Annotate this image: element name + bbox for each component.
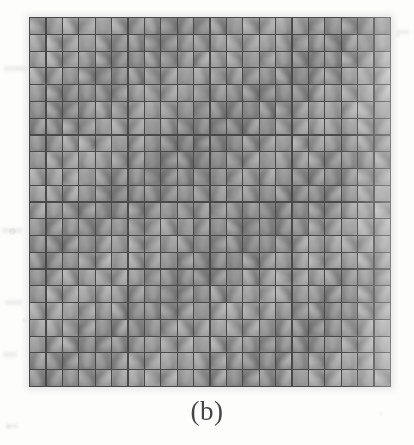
patch-cell	[227, 337, 242, 353]
patch-cell	[342, 303, 357, 319]
patch-cell	[358, 52, 373, 68]
patch-cell	[342, 203, 357, 219]
patch-cell	[342, 270, 357, 286]
scan-artifact	[3, 352, 17, 357]
patch-cell	[47, 203, 62, 219]
patch-cell	[178, 253, 193, 269]
patch-cell	[358, 253, 373, 269]
patch-cell	[342, 119, 357, 135]
patch-cell	[178, 286, 193, 302]
patch-cell	[129, 136, 144, 152]
patch-cell	[293, 370, 308, 386]
patch-cell	[211, 119, 226, 135]
patch-cell	[211, 203, 226, 219]
patch-cell	[243, 303, 258, 319]
patch-cell	[145, 270, 160, 286]
patch-cell	[30, 18, 45, 34]
patch-cell	[309, 337, 324, 353]
patch-cell	[358, 219, 373, 235]
patch-cell	[211, 270, 226, 286]
patch-cell	[375, 52, 390, 68]
patch-cell	[194, 136, 209, 152]
patch-cell	[47, 286, 62, 302]
scan-artifact	[5, 300, 22, 305]
patch-cell	[375, 236, 390, 252]
patch-cell	[227, 370, 242, 386]
patch-cell	[112, 253, 127, 269]
patch-cell	[227, 169, 242, 185]
patch-cell	[309, 203, 324, 219]
patch-cell	[79, 337, 94, 353]
patch-cell	[63, 353, 78, 369]
patch-cell	[112, 18, 127, 34]
patch-cell	[243, 353, 258, 369]
patch-cell	[227, 219, 242, 235]
patch-cell	[96, 35, 111, 51]
patch-cell	[276, 370, 291, 386]
patch-cell	[79, 52, 94, 68]
patch-cell	[129, 270, 144, 286]
patch-cell	[178, 219, 193, 235]
patch-cell	[63, 85, 78, 101]
patch-cell	[358, 270, 373, 286]
patch-cell	[178, 169, 193, 185]
patch-cell	[161, 85, 176, 101]
patch-cell	[243, 236, 258, 252]
patch-cell	[161, 169, 176, 185]
patch-cell	[309, 85, 324, 101]
patch-cell	[342, 18, 357, 34]
patch-cell	[309, 52, 324, 68]
patch-cell	[211, 253, 226, 269]
patch-cell	[63, 270, 78, 286]
patch-cell	[112, 85, 127, 101]
patch-cell	[30, 169, 45, 185]
patch-cell	[227, 152, 242, 168]
patch-cell	[293, 52, 308, 68]
patch-cell	[112, 169, 127, 185]
patch-cell	[145, 68, 160, 84]
scan-artifact	[4, 66, 30, 71]
patch-cell	[243, 136, 258, 152]
patch-cell	[112, 236, 127, 252]
patch-cell	[30, 68, 45, 84]
patch-cell	[293, 136, 308, 152]
patch-cell	[375, 102, 390, 118]
patch-cell	[358, 68, 373, 84]
patch-cell	[194, 186, 209, 202]
patch-cell	[30, 236, 45, 252]
patch-cell	[79, 253, 94, 269]
patch-cell	[211, 102, 226, 118]
patch-cell	[194, 18, 209, 34]
patch-cell	[30, 219, 45, 235]
patch-cell	[227, 236, 242, 252]
patch-cell	[276, 270, 291, 286]
patch-cell	[161, 35, 176, 51]
patch-cell	[47, 68, 62, 84]
patch-cell	[96, 219, 111, 235]
patch-cell	[194, 320, 209, 336]
patch-cell	[112, 152, 127, 168]
patch-cell	[30, 152, 45, 168]
patch-cell	[96, 136, 111, 152]
patch-cell	[145, 18, 160, 34]
patch-cell	[211, 337, 226, 353]
patch-cell	[358, 353, 373, 369]
patch-cell	[309, 320, 324, 336]
patch-cell	[358, 119, 373, 135]
patch-cell	[211, 169, 226, 185]
patch-cell	[47, 85, 62, 101]
patch-cell	[194, 253, 209, 269]
patch-cell	[342, 320, 357, 336]
patch-cell	[63, 320, 78, 336]
patch-cell	[30, 253, 45, 269]
patch-cell	[342, 370, 357, 386]
patch-cell	[309, 186, 324, 202]
patch-cell	[129, 370, 144, 386]
patch-cell	[178, 303, 193, 319]
patch-cell	[47, 152, 62, 168]
patch-cell	[276, 102, 291, 118]
patch-cell	[47, 353, 62, 369]
patch-cell	[325, 253, 340, 269]
patch-cell	[309, 270, 324, 286]
patch-cell	[293, 68, 308, 84]
